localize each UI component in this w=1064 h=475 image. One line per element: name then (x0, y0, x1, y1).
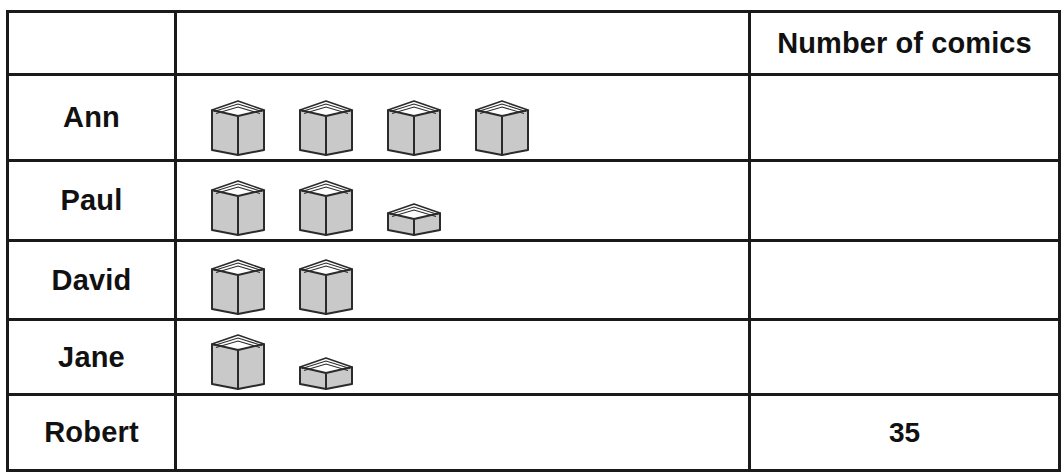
symbol-strip (177, 242, 748, 318)
comic-book-icon (295, 97, 357, 159)
count-cell-ann[interactable] (750, 75, 1060, 161)
table-header-row: Number of comics (8, 12, 1060, 75)
symbol-strip (177, 396, 748, 469)
comics-pictograph-table: Number of comics Ann (6, 10, 1061, 472)
comic-book-half-icon (383, 177, 445, 239)
header-cell-blank-pictogram (176, 12, 750, 75)
table-row: David (8, 241, 1060, 320)
pictogram-cell-paul (176, 161, 750, 241)
header-cell-number-of-comics: Number of comics (750, 12, 1060, 75)
comic-book-icon (207, 177, 269, 239)
comic-book-icon (295, 177, 357, 239)
count-cell-robert[interactable]: 35 (750, 395, 1060, 471)
header-cell-blank-name (8, 12, 176, 75)
pictograph-page: Number of comics Ann (0, 0, 1064, 475)
row-label-robert: Robert (8, 395, 176, 471)
comic-book-half-icon (295, 331, 357, 393)
count-cell-paul[interactable] (750, 161, 1060, 241)
row-label-paul: Paul (8, 161, 176, 241)
table-row: Jane (8, 320, 1060, 395)
comic-book-icon (207, 97, 269, 159)
pictogram-cell-jane (176, 320, 750, 395)
table-row: Paul (8, 161, 1060, 241)
row-label-david: David (8, 241, 176, 320)
table-body: Ann (8, 75, 1060, 471)
symbol-strip (177, 321, 748, 393)
pictogram-cell-david (176, 241, 750, 320)
count-cell-david[interactable] (750, 241, 1060, 320)
pictogram-cell-ann (176, 75, 750, 161)
symbol-strip (177, 76, 748, 159)
comic-book-icon (383, 97, 445, 159)
pictogram-cell-robert (176, 395, 750, 471)
comic-book-icon (207, 331, 269, 393)
row-label-jane: Jane (8, 320, 176, 395)
comic-book-icon (295, 256, 357, 318)
row-label-ann: Ann (8, 75, 176, 161)
table-row: Robert 35 (8, 395, 1060, 471)
comic-book-icon (207, 256, 269, 318)
count-cell-jane[interactable] (750, 320, 1060, 395)
comic-book-icon (471, 97, 533, 159)
table-row: Ann (8, 75, 1060, 161)
symbol-strip (177, 162, 748, 239)
